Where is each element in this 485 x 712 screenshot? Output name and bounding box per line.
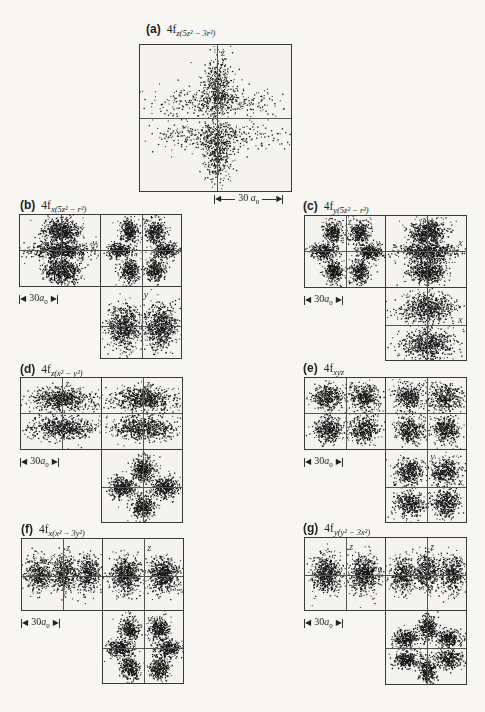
axis-label-z: z [66, 543, 70, 553]
axis-label-x: x [174, 477, 178, 487]
axis-label-z: z [430, 217, 434, 227]
panel-letter: (g) [303, 521, 318, 535]
panel-g-label: (g)4fy(y² − 3x²) [303, 521, 370, 537]
orbital-projection-box: yx [385, 287, 467, 361]
orbital-projection-box: zy [304, 377, 386, 450]
horizontal-axis [20, 250, 100, 251]
axis-label-x: x [458, 638, 462, 648]
axis-label-y: y [458, 565, 462, 575]
vertical-axis [427, 611, 428, 684]
orbital-projection-box: zy [19, 214, 101, 287]
axis-label-z: z [65, 379, 69, 389]
orbital-name: 4f [41, 363, 51, 375]
axis-label-y: y [94, 565, 98, 575]
orbital-projection-box: zx [100, 214, 182, 287]
horizontal-axis [22, 576, 102, 577]
orbital-projection-box: z [139, 44, 292, 192]
vertical-axis [143, 378, 144, 449]
panel-d-scale-bar: ◀ 30a0 ▶ [20, 455, 59, 469]
axis-label-y: y [92, 238, 96, 248]
orbital-projection-box: yx [102, 610, 184, 684]
orbital-subscript: xyz [333, 367, 344, 377]
axis-label-x: x [173, 239, 177, 249]
orbital-projection-box: zy [20, 377, 102, 450]
axis-label-y: y [376, 238, 380, 248]
panel-d-label: (d)4fz(x² − y²) [20, 362, 83, 378]
panel-g-scale-bar: ◀ 30a0 ▶ [304, 616, 343, 630]
vertical-axis [62, 378, 63, 449]
orbital-subscript: x(x² − 3y²) [49, 528, 85, 538]
axis-label-x: x [174, 400, 178, 410]
horizontal-axis [386, 325, 466, 326]
axis-label-y: y [430, 614, 434, 624]
panel-e-label: (e)4fxyz [303, 361, 344, 377]
vertical-axis [61, 215, 62, 286]
orbital-projection-box: zx [385, 215, 467, 288]
vertical-axis [144, 539, 145, 610]
axis-label-x: x [458, 238, 462, 248]
orbital-name: 4f [167, 23, 177, 35]
horizontal-axis [386, 648, 466, 649]
vertical-axis [427, 378, 428, 449]
axis-label-z: z [144, 216, 148, 226]
orbital-projection-box: zx [385, 377, 467, 450]
horizontal-axis [103, 648, 183, 649]
vertical-axis [427, 288, 428, 360]
panel-a-label: (a)4fz(5z² − 3r²) [146, 22, 215, 38]
axis-label-y: y [377, 400, 381, 410]
orbital-subscript: y(5z² − r²) [333, 205, 368, 215]
axis-label-z: z [430, 379, 434, 389]
horizontal-axis [103, 576, 183, 577]
panel-c-scale-bar: ◀ 30a0 ▶ [304, 293, 343, 307]
orbital-name: 4f [324, 362, 334, 374]
horizontal-axis [386, 575, 466, 576]
horizontal-axis [386, 487, 466, 488]
vertical-axis [143, 450, 144, 522]
panel-letter: (e) [303, 361, 318, 375]
axis-label-y: y [147, 614, 151, 624]
axis-label-x: x [175, 565, 179, 575]
vertical-axis [346, 538, 347, 610]
panel-letter: (d) [20, 362, 35, 376]
horizontal-axis [305, 413, 385, 414]
orbital-projection-box: zx [102, 538, 184, 611]
axis-label-x: x [458, 315, 462, 325]
panel-b-scale-bar: ◀ 30a0 ▶ [19, 292, 58, 306]
vertical-axis [427, 216, 428, 287]
axis-label-z: z [147, 543, 151, 553]
vertical-axis [427, 450, 428, 522]
horizontal-axis [101, 326, 181, 327]
vertical-axis [144, 611, 145, 683]
horizontal-axis [102, 413, 182, 414]
axis-label-z: z [430, 542, 434, 552]
vertical-axis [217, 45, 218, 191]
orbital-projection-box: zy [304, 215, 386, 288]
orbital-projection-box: yx [100, 286, 182, 359]
orbital-projection-box: yx [385, 610, 467, 685]
axis-label-z: z [221, 48, 225, 58]
orbital-projection-box: zy [21, 538, 103, 611]
panel-f-label: (f)4fx(x² − 3y²) [21, 522, 85, 538]
axis-label-y: y [430, 290, 434, 300]
orbital-name: 4f [324, 522, 334, 534]
horizontal-axis [140, 118, 291, 119]
vertical-axis [346, 378, 347, 449]
orbital-name: 4f [41, 199, 51, 211]
axis-label-z: z [348, 217, 352, 227]
axis-label-y: y [93, 400, 97, 410]
panel-letter: (a) [146, 22, 161, 36]
axis-label-y: y [146, 452, 150, 462]
orbital-projection-box: zy [304, 537, 386, 611]
axis-label-y: y [144, 290, 148, 300]
panel-letter: (f) [21, 522, 33, 536]
panel-a-scale-bar: ◀ 30 a0 ▶ [214, 192, 283, 206]
panel-b-label: (b)4fx(5z² − r²) [20, 198, 86, 214]
orbital-projection-box: zx [101, 377, 183, 450]
axis-label-y: y [377, 565, 381, 575]
horizontal-axis [102, 487, 182, 488]
panel-c-label: (c)4fy(5z² − r²) [303, 199, 369, 215]
panel-f-scale-bar: ◀ 30a0 ▶ [21, 616, 60, 630]
axis-label-z: z [349, 542, 353, 552]
orbital-projection-box: zy [385, 537, 467, 611]
axis-label-x: x [458, 400, 462, 410]
